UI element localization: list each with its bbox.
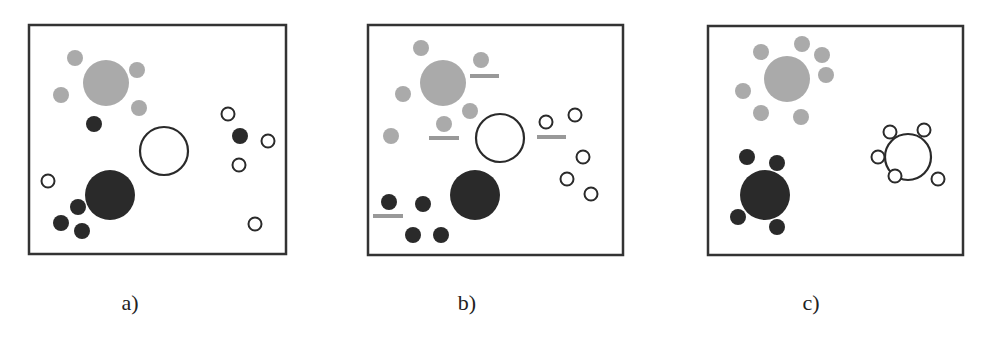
- small-dark-circle: [381, 194, 397, 210]
- small-white-circle: [561, 173, 574, 186]
- small-gray-circle: [735, 83, 751, 99]
- panel-c: [708, 26, 963, 255]
- small-dark-circle: [53, 215, 69, 231]
- small-white-circle: [577, 151, 590, 164]
- small-gray-circle: [53, 87, 69, 103]
- small-white-circle: [42, 175, 55, 188]
- small-gray-circle: [67, 50, 83, 66]
- small-white-circle: [585, 188, 598, 201]
- gray-bar: [537, 135, 566, 139]
- small-gray-circle: [473, 52, 489, 68]
- small-white-circle: [249, 218, 262, 231]
- small-white-circle: [884, 126, 897, 139]
- small-dark-circle: [415, 196, 431, 212]
- small-gray-circle: [818, 67, 834, 83]
- small-white-circle: [569, 109, 582, 122]
- small-gray-circle: [436, 116, 452, 132]
- small-dark-circle: [74, 223, 90, 239]
- large-gray-circle: [83, 60, 129, 106]
- large-dark-circle: [740, 170, 790, 220]
- small-gray-circle: [794, 36, 810, 52]
- small-white-circle: [540, 116, 553, 129]
- small-gray-circle: [753, 44, 769, 60]
- gray-bar: [373, 214, 403, 218]
- small-dark-circle: [739, 149, 755, 165]
- panel-a: [29, 25, 286, 254]
- small-gray-circle: [395, 86, 411, 102]
- small-gray-circle: [129, 62, 145, 78]
- small-white-circle: [222, 108, 235, 121]
- small-gray-circle: [793, 109, 809, 125]
- gray-bar: [429, 136, 459, 140]
- small-white-circle: [932, 173, 945, 186]
- small-white-circle: [233, 159, 246, 172]
- small-gray-circle: [383, 128, 399, 144]
- small-gray-circle: [462, 103, 478, 119]
- small-gray-circle: [753, 105, 769, 121]
- small-dark-circle: [769, 219, 785, 235]
- panel-b: [368, 25, 623, 255]
- large-gray-circle: [764, 56, 810, 102]
- small-dark-circle: [70, 199, 86, 215]
- large-white-circle: [140, 127, 188, 175]
- large-dark-circle: [85, 170, 135, 220]
- small-gray-circle: [131, 100, 147, 116]
- small-dark-circle: [232, 128, 248, 144]
- large-dark-circle: [450, 170, 500, 220]
- small-gray-circle: [814, 47, 830, 63]
- small-dark-circle: [86, 116, 102, 132]
- small-gray-circle: [413, 40, 429, 56]
- small-dark-circle: [405, 227, 421, 243]
- large-white-circle: [476, 114, 524, 162]
- gray-bar: [470, 74, 499, 78]
- large-gray-circle: [420, 60, 466, 106]
- figure-canvas: [0, 0, 990, 348]
- panel-label-b: b): [458, 290, 476, 316]
- small-white-circle: [918, 124, 931, 137]
- panel-label-a: a): [121, 290, 138, 316]
- small-white-circle: [889, 170, 902, 183]
- small-dark-circle: [769, 155, 785, 171]
- small-dark-circle: [433, 227, 449, 243]
- small-dark-circle: [730, 209, 746, 225]
- small-white-circle: [262, 135, 275, 148]
- panel-label-c: c): [802, 290, 819, 316]
- small-white-circle: [872, 151, 885, 164]
